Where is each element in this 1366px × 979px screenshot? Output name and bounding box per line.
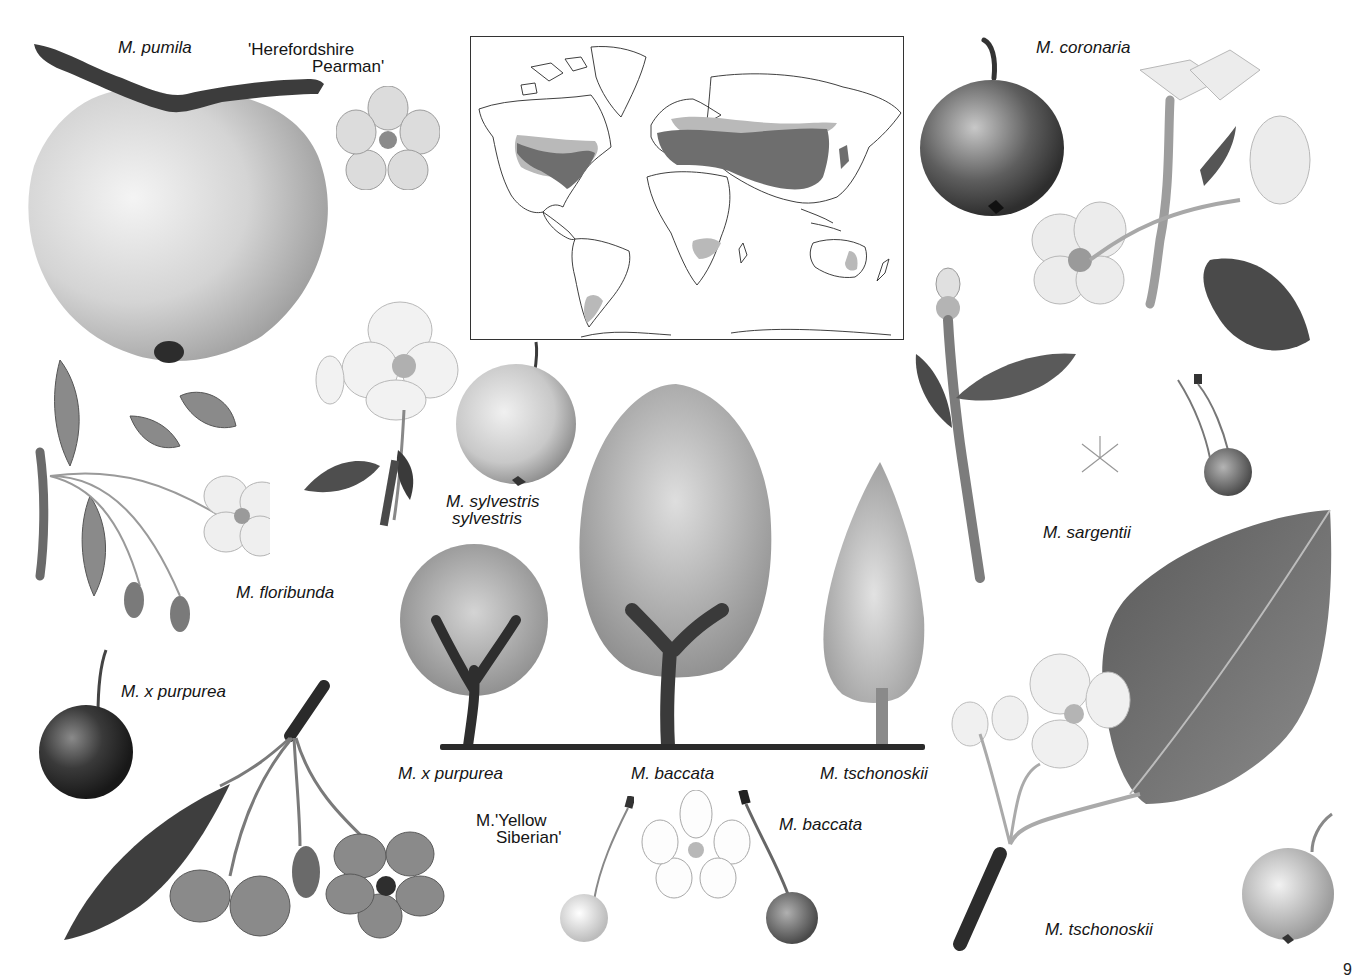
page-number: 9 — [1343, 961, 1352, 979]
herefordshire-flower-icon — [336, 86, 440, 190]
ground-line — [440, 744, 925, 750]
yellow-siberian-fruit-illustration — [554, 796, 634, 946]
label-herefordshire-line2: Pearman' — [312, 58, 384, 76]
label-floribunda: M. floribunda — [236, 584, 334, 602]
label-sylvestris-line2: sylvestris — [452, 510, 522, 528]
baccata-flower-icon — [640, 790, 752, 902]
tschonoskii-fruit-illustration — [1228, 810, 1338, 944]
label-yellow-siberian-line2: Siberian' — [496, 829, 562, 847]
world-distribution-map — [470, 36, 904, 340]
baccata-fruit-illustration — [738, 790, 828, 946]
label-tschonoskii-fruit: M. tschonoskii — [1045, 921, 1153, 939]
purpurea-branch-illustration — [60, 676, 470, 956]
sargentii-fruit-illustration — [1194, 374, 1254, 498]
label-tree-baccata: M. baccata — [631, 765, 714, 783]
label-tree-tschonoskii: M. tschonoskii — [820, 765, 928, 783]
pumila-apple-illustration — [22, 36, 342, 376]
floribunda-branch-illustration — [30, 356, 270, 636]
sylvestris-fruit-illustration — [454, 340, 584, 490]
label-pumila: M. pumila — [118, 39, 192, 57]
sylvestris-blossom-illustration — [300, 300, 460, 530]
tree-baccata-illustration — [572, 380, 782, 750]
